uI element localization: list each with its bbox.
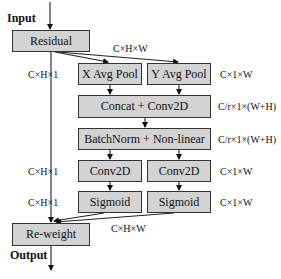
residual-block: Residual <box>12 30 90 52</box>
dim-y-pool: C×1×W <box>220 69 252 80</box>
output-label: Output <box>10 248 47 263</box>
conv2d-left-block: Conv2D <box>78 160 142 182</box>
dim-sigmoid-right: C×1×W <box>220 197 252 208</box>
input-label: Input <box>7 11 36 26</box>
dim-conv-right: C×1×W <box>220 166 252 177</box>
dim-batchnorm: C/r×1×(W+H) <box>218 134 276 145</box>
concat-conv2d-block: Concat + Conv2D <box>78 95 211 118</box>
batchnorm-nonlinear-block: BatchNorm + Non-linear <box>78 128 211 150</box>
dim-concat: C/r×1×(W+H) <box>218 101 276 112</box>
dim-reweight-in: C×H×W <box>111 223 146 234</box>
dim-x-pool: C×H×1 <box>28 69 58 80</box>
dim-conv-left: C×H×1 <box>28 166 58 177</box>
y-avg-pool-block: Y Avg Pool <box>147 63 211 85</box>
sigmoid-left-block: Sigmoid <box>78 191 142 213</box>
reweight-block: Re-weight <box>12 223 90 246</box>
sigmoid-right-block: Sigmoid <box>147 191 211 213</box>
dim-residual-out: C×H×W <box>113 43 148 54</box>
dim-sigmoid-left: C×H×1 <box>28 197 58 208</box>
conv2d-right-block: Conv2D <box>147 160 211 182</box>
x-avg-pool-block: X Avg Pool <box>78 63 142 85</box>
